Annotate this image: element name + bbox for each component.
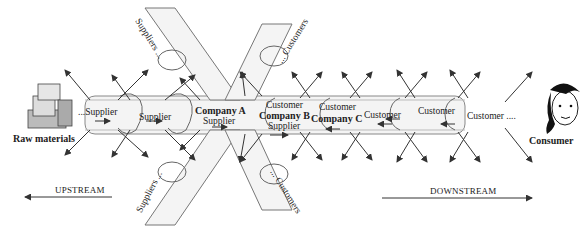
consumer-face-icon [546, 83, 580, 134]
raw-materials-label: Raw materials [13, 134, 75, 144]
upstream-label: UPSTREAM [55, 186, 105, 195]
company-c-customer: Customer [319, 103, 356, 113]
downstream-label: DOWNSTREAM [430, 187, 497, 196]
company-b-label: Company B [259, 111, 310, 121]
chain-link-label: Customer .... [467, 112, 516, 122]
company-a-supplier: Supplier [203, 117, 235, 127]
chain-link-label: ...Supplier [78, 108, 117, 118]
company-a-label: Company A [195, 106, 246, 116]
chain-link-label: Supplier [139, 113, 171, 123]
boxes-icon [28, 84, 72, 128]
company-c-label: Company C [311, 114, 362, 124]
chain-link-label: Customer [364, 111, 401, 121]
consumer-label: Consumer [529, 136, 573, 146]
company-b-supplier: Supplier [268, 122, 300, 132]
chain-link-label: Customer [418, 107, 455, 117]
